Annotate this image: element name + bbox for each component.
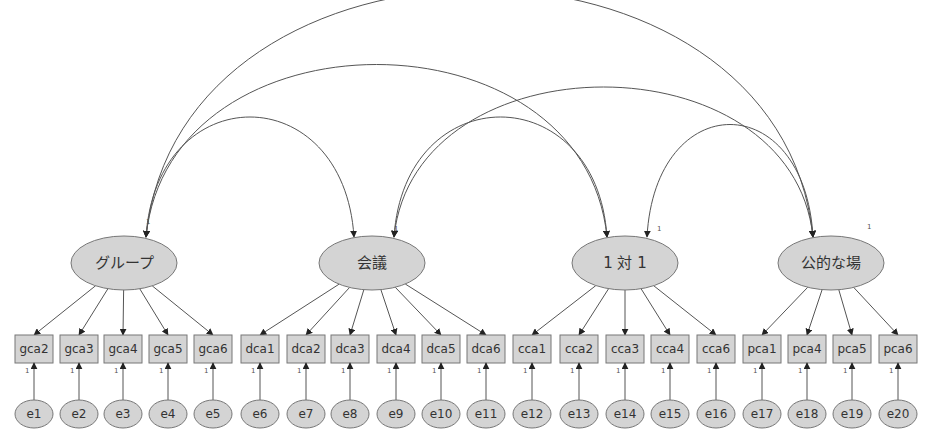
latent-label: 1 対 1 xyxy=(603,254,647,272)
indicator-pca4: pca4 xyxy=(788,335,826,363)
loading-path-dca1 xyxy=(260,284,339,335)
indicator-dca2: dca2 xyxy=(287,335,325,363)
indicator-label: pca1 xyxy=(747,342,776,356)
error-path-fixed-label: 1 xyxy=(70,367,74,375)
loading-path-gca6 xyxy=(152,286,213,335)
indicator-label: cca3 xyxy=(611,342,639,356)
error-term-e2: 1e2 xyxy=(60,363,98,428)
indicator-label: pca6 xyxy=(883,342,912,356)
error-path-fixed-label: 1 xyxy=(341,367,345,375)
error-term-e9: 1e9 xyxy=(377,363,415,428)
error-label: e4 xyxy=(160,407,175,421)
error-path-fixed-label: 1 xyxy=(616,367,620,375)
error-label: e13 xyxy=(568,407,591,421)
covariance-arc-one-on-one-public xyxy=(647,125,813,238)
latent-factor-meeting: 会議1 xyxy=(319,225,425,290)
indicator-dca5: dca5 xyxy=(422,335,460,363)
error-label: e7 xyxy=(298,407,313,421)
error-label: e20 xyxy=(887,407,910,421)
indicator-label: gca2 xyxy=(19,342,48,356)
error-label: e8 xyxy=(342,407,357,421)
error-path-fixed-label: 1 xyxy=(570,367,574,375)
error-path-fixed-label: 1 xyxy=(114,367,118,375)
error-path-fixed-label: 1 xyxy=(387,367,391,375)
loading-path-cca1 xyxy=(532,286,596,335)
error-label: e18 xyxy=(796,407,819,421)
covariance-arc-meeting-one-on-one xyxy=(394,117,607,237)
error-path-fixed-label: 1 xyxy=(25,367,29,375)
loading-path-dca4 xyxy=(381,290,396,335)
latent-factors: グループ1会議11 対 11公的な場1 xyxy=(71,218,884,290)
indicator-gca3: gca3 xyxy=(60,335,98,363)
error-label: e15 xyxy=(659,407,682,421)
indicator-gca6: gca6 xyxy=(194,335,232,363)
loading-path-dca2 xyxy=(306,287,350,335)
error-term-e4: 1e4 xyxy=(149,363,187,428)
error-path-fixed-label: 1 xyxy=(707,367,711,375)
error-path-fixed-label: 1 xyxy=(297,367,301,375)
error-label: e14 xyxy=(614,407,637,421)
indicator-pca6: pca6 xyxy=(879,335,917,363)
indicator-label: cca1 xyxy=(518,342,546,356)
error-label: e6 xyxy=(252,407,267,421)
indicator-label: dca5 xyxy=(426,342,455,356)
latent-factor-group: グループ1 xyxy=(71,218,177,290)
error-path-fixed-label: 1 xyxy=(843,367,847,375)
error-label: e10 xyxy=(430,407,453,421)
loading-path-gca4 xyxy=(123,290,124,335)
error-term-e8: 1e8 xyxy=(331,363,369,428)
covariance-arcs xyxy=(146,0,813,237)
loading-path-pca5 xyxy=(839,290,852,335)
indicator-label: pca5 xyxy=(837,342,866,356)
error-path-fixed-label: 1 xyxy=(661,367,665,375)
loading-path-pca1 xyxy=(762,287,808,335)
loading-path-dca3 xyxy=(350,290,364,335)
indicator-dca4: dca4 xyxy=(377,335,415,363)
fixed-variance-label: 1 xyxy=(394,225,398,233)
indicator-label: gca6 xyxy=(198,342,227,356)
error-label: e1 xyxy=(26,407,41,421)
error-label: e3 xyxy=(115,407,130,421)
error-label: e17 xyxy=(751,407,774,421)
latent-label: 会議 xyxy=(357,254,387,272)
latent-factor-public: 公的な場1 xyxy=(778,223,884,290)
error-term-e18: 1e18 xyxy=(788,363,826,428)
error-path-fixed-label: 1 xyxy=(159,367,163,375)
error-term-e13: 1e13 xyxy=(560,363,598,428)
error-path-fixed-label: 1 xyxy=(251,367,255,375)
error-term-e16: 1e16 xyxy=(697,363,735,428)
loading-path-dca5 xyxy=(395,287,441,335)
error-path-fixed-label: 1 xyxy=(523,367,527,375)
error-term-e6: 1e6 xyxy=(241,363,279,428)
error-path-fixed-label: 1 xyxy=(477,367,481,375)
error-term-e12: 1e12 xyxy=(513,363,551,428)
indicator-cca3: cca3 xyxy=(606,335,644,363)
covariance-arc-group-public xyxy=(146,0,813,237)
indicator-label: dca4 xyxy=(381,342,410,356)
error-path-fixed-label: 1 xyxy=(798,367,802,375)
error-label: e12 xyxy=(521,407,544,421)
indicator-cca1: cca1 xyxy=(513,335,551,363)
error-label: e5 xyxy=(205,407,220,421)
indicator-cca2: cca2 xyxy=(560,335,598,363)
indicator-label: cca2 xyxy=(565,342,593,356)
indicator-dca1: dca1 xyxy=(241,335,279,363)
indicator-gca4: gca4 xyxy=(104,335,142,363)
error-term-e5: 1e5 xyxy=(194,363,232,428)
error-term-e1: 1e1 xyxy=(15,363,53,428)
error-term-e20: 1e20 xyxy=(879,363,917,428)
loading-path-dca6 xyxy=(405,284,486,335)
indicator-label: pca4 xyxy=(792,342,821,356)
indicator-label: dca3 xyxy=(335,342,364,356)
factor-loading-paths xyxy=(34,284,898,335)
loading-path-cca6 xyxy=(654,286,716,335)
indicator-gca2: gca2 xyxy=(15,335,53,363)
indicator-dca6: dca6 xyxy=(467,335,505,363)
loading-path-gca2 xyxy=(34,286,96,335)
sem-path-diagram: グループ1会議11 対 11公的な場1 gca2gca3gca4gca5gca6… xyxy=(0,0,932,443)
covariance-arc-group-one-on-one xyxy=(146,65,607,238)
indicator-pca1: pca1 xyxy=(743,335,781,363)
latent-factor-one-on-one: 1 対 11 xyxy=(572,225,678,290)
fixed-variance-label: 1 xyxy=(657,225,661,233)
indicator-label: gca4 xyxy=(108,342,137,356)
